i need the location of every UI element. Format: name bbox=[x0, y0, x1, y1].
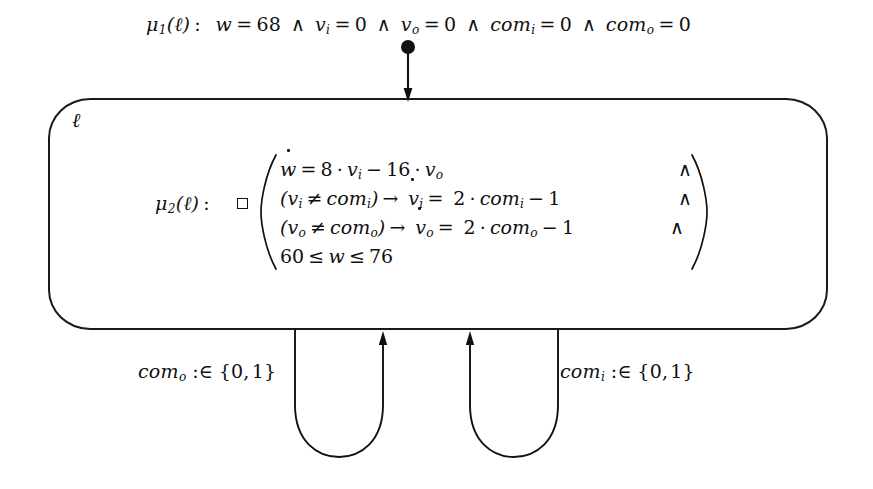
invariant-row-bounds-w: 60≤w≤76 bbox=[280, 242, 690, 271]
entry-transition-arrow bbox=[390, 36, 430, 106]
self-loop-com-i-path bbox=[466, 330, 558, 457]
invariant-row-flow-w: w=8·vi−16·vo ∧ bbox=[280, 155, 690, 184]
invariant-rows: w=8·vi−16·vo ∧ (vi≠comi)→vi=2·comi−1 ∧ (… bbox=[280, 155, 690, 271]
location-label: ℓ bbox=[72, 108, 81, 132]
row-conjunction-3: ∧ bbox=[670, 213, 684, 242]
arrowhead-icon bbox=[466, 331, 474, 345]
mu1-initial-condition-label: μ1(ℓ):w=68∧vi=0∧vo=0∧comi=0∧como=0 bbox=[146, 13, 691, 37]
self-loop-com-i-label: comi:∈{0, 1} bbox=[560, 360, 695, 384]
row-conjunction-1: ∧ bbox=[678, 155, 692, 184]
mu2-invariant-label: μ2(ℓ): bbox=[155, 192, 214, 216]
automaton-diagram-canvas: μ1(ℓ):w=68∧vi=0∧vo=0∧comi=0∧como=0 μ₁(ℓ)… bbox=[0, 0, 873, 489]
invariant-row-guard-vo: (vo≠como)→vo=2·como−1 ∧ bbox=[280, 213, 690, 242]
left-parenthesis bbox=[258, 153, 280, 271]
invariant-row-guard-vi: (vi≠comi)→vi=2·comi−1 ∧ bbox=[280, 184, 690, 213]
self-loop-com-o-label: como:∈{0, 1} bbox=[138, 360, 276, 384]
self-loop-com-o-path bbox=[295, 330, 387, 457]
box-modality-icon bbox=[237, 198, 248, 209]
arrowhead-icon bbox=[379, 331, 387, 345]
row-conjunction-2: ∧ bbox=[678, 184, 692, 213]
